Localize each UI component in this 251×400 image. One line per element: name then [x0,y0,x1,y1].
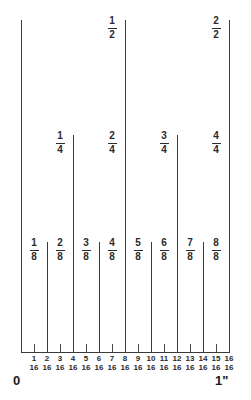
quarter-fraction-label: 14 [49,131,71,155]
fraction-denominator: 8 [127,252,149,263]
half-fraction-label: 12 [101,16,123,40]
fraction-denominator: 8 [75,252,97,263]
eighth-division-line [177,242,178,352]
eighth-division-line [73,242,74,352]
fraction-numerator: 7 [179,238,201,249]
eighth-fraction-label: 68 [153,238,175,262]
fraction-numerator: 16 [220,354,238,363]
fraction-numerator: 1 [23,238,45,249]
eighth-fraction-label: 28 [49,238,71,262]
half-fraction-label: 22 [205,16,227,40]
eighth-division-line [229,242,230,352]
fraction-numerator: 5 [127,238,149,249]
one-inch-label: 1" [215,374,228,387]
fraction-numerator: 8 [205,238,227,249]
fraction-numerator: 4 [205,131,227,142]
sixteenth-tick [216,344,217,352]
fraction-denominator: 8 [153,252,175,263]
zero-inch-label: 0 [13,374,20,387]
fraction-denominator: 4 [49,145,71,156]
fraction-numerator: 2 [101,131,123,142]
eighth-division-line [47,242,48,352]
eighth-fraction-label: 88 [205,238,227,262]
fraction-denominator: 8 [49,252,71,263]
eighth-division-line [125,242,126,352]
ruler-baseline [21,352,230,353]
sixteenth-fraction-label: 1616 [220,354,238,372]
fraction-denominator: 4 [101,145,123,156]
eighth-division-line [151,242,152,352]
fraction-numerator: 4 [101,238,123,249]
eighth-fraction-label: 78 [179,238,201,262]
fraction-numerator: 3 [153,131,175,142]
sixteenth-tick [112,344,113,352]
quarter-fraction-label: 34 [153,131,175,155]
fraction-numerator: 3 [75,238,97,249]
ruler-fraction-diagram: 1222142434441828384858687888116216316416… [0,0,251,400]
fraction-denominator: 4 [153,145,175,156]
sixteenth-tick [164,344,165,352]
sixteenth-tick [60,344,61,352]
quarter-fraction-label: 24 [101,131,123,155]
fraction-denominator: 8 [179,252,201,263]
sixteenth-tick [138,344,139,352]
quarter-fraction-label: 44 [205,131,227,155]
fraction-denominator: 4 [205,145,227,156]
fraction-numerator: 1 [101,16,123,27]
fraction-denominator: 16 [220,363,238,372]
eighth-fraction-label: 18 [23,238,45,262]
inch-line-zero [21,20,22,352]
eighth-division-line [203,242,204,352]
fraction-numerator: 2 [49,238,71,249]
fraction-denominator: 8 [205,252,227,263]
eighth-fraction-label: 58 [127,238,149,262]
fraction-numerator: 1 [49,131,71,142]
sixteenth-tick [86,344,87,352]
fraction-denominator: 2 [205,30,227,41]
sixteenth-tick [190,344,191,352]
eighth-fraction-label: 48 [101,238,123,262]
fraction-denominator: 2 [101,30,123,41]
fraction-denominator: 8 [101,252,123,263]
eighth-division-line [99,242,100,352]
fraction-numerator: 2 [205,16,227,27]
sixteenth-tick [34,344,35,352]
fraction-denominator: 8 [23,252,45,263]
fraction-numerator: 6 [153,238,175,249]
eighth-fraction-label: 38 [75,238,97,262]
